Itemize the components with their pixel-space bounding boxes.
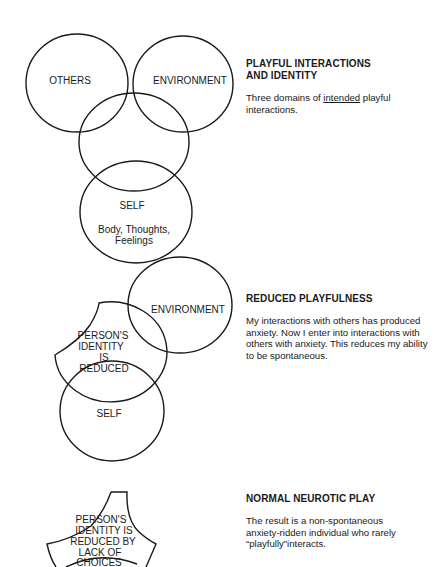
caption-reduced-playfulness: REDUCED PLAYFULNESS My interactions with… [246,293,432,361]
self-label: SELF [119,200,144,211]
caption-normal-neurotic-play: NORMAL NEUROTIC PLAY The result is a non… [246,493,432,550]
identity-label-3: IS [99,352,109,363]
caption-playful-interactions: PLAYFUL INTERACTIONS AND IDENTITY Three … [246,58,432,115]
caption-body: The result is a non-spontaneous anxiety-… [246,515,396,550]
caption-heading: NORMAL NEUROTIC PLAY [246,493,432,505]
identity-label-2: IDENTITY [78,341,124,352]
caption-heading: PLAYFUL INTERACTIONS AND IDENTITY [246,58,432,82]
identity-label-5: CHOICES [76,557,122,567]
environment-label: ENVIRONMENT [153,75,227,86]
diagram-playful-interactions: OTHERS ENVIRONMENT SELF Body, Thoughts, … [26,34,233,263]
environment-label: ENVIRONMENT [151,304,225,315]
identity-label-3: REDUCED BY [70,536,136,547]
body-text: Three domains of [246,92,323,103]
self-sublabel-1: Body, Thoughts, [98,224,170,235]
caption-heading: REDUCED PLAYFULNESS [246,293,432,305]
self-label: SELF [96,408,121,419]
identity-label-2: IDENTITY IS [75,525,133,536]
diagram-reduced-playfulness: PERSON'S IDENTITY IS REDUCED ENVIRONMENT… [55,257,232,461]
self-sublabel-2: Feelings [115,235,153,246]
heading-line: AND IDENTITY [246,70,432,82]
diagram-normal-neurotic-play: PERSON'S IDENTITY IS REDUCED BY LACK OF … [47,492,156,567]
identity-label-1: PERSON'S [76,514,127,525]
caption-body: Three domains of intended playful intera… [246,92,432,115]
identity-label-1: PERSON'S [78,330,129,341]
caption-body: My interactions with others has produced… [246,315,432,361]
identity-label-4: REDUCED [79,363,128,374]
others-label: OTHERS [49,75,91,86]
self-circle [80,161,192,263]
underlined-word: intended [323,92,360,103]
heading-line: PLAYFUL INTERACTIONS [246,58,432,70]
